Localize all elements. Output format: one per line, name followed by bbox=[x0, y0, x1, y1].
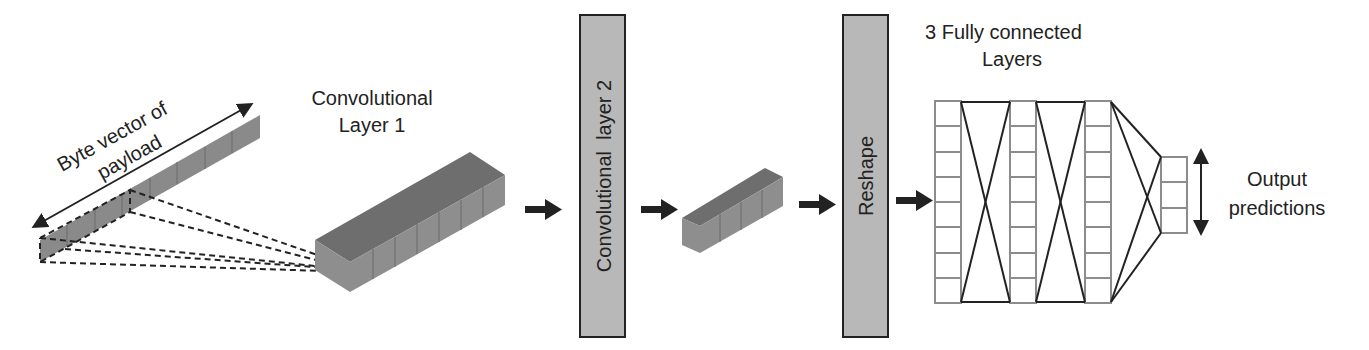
fc-column-3 bbox=[1085, 101, 1111, 303]
cnn-architecture-diagram: Byte vector of payload Convolutional Lay… bbox=[0, 0, 1369, 350]
conv1-label-1: Convolutional bbox=[311, 87, 432, 109]
fc-label-1: 3 Fully connected bbox=[925, 21, 1082, 43]
arrow-icon bbox=[641, 199, 678, 220]
fc-connections bbox=[961, 102, 1161, 302]
output-label-2: predictions bbox=[1229, 197, 1326, 219]
reshape-label: Reshape bbox=[855, 136, 877, 216]
conv1-block bbox=[315, 152, 505, 292]
fc-column-1 bbox=[935, 101, 961, 303]
conv1-label-2: Layer 1 bbox=[339, 114, 406, 136]
arrow-icon bbox=[896, 190, 933, 211]
arrow-icon bbox=[525, 199, 562, 220]
fc-column-2 bbox=[1010, 101, 1036, 303]
conv2-label: Convolutional layer 2 bbox=[593, 80, 615, 272]
output-column bbox=[1161, 157, 1187, 233]
fc-label-2: Layers bbox=[982, 48, 1042, 70]
arrow-icon bbox=[799, 194, 836, 215]
output-label-1: Output bbox=[1247, 168, 1307, 190]
conv2-output-block bbox=[682, 168, 783, 253]
